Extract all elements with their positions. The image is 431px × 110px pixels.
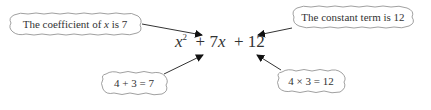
callout-constant-text: The constant term is 12 <box>289 4 417 30</box>
callout-sum: 4 + 3 = 7 <box>98 69 170 97</box>
exponent: 2 <box>183 32 188 42</box>
coefficient-text-post: is 7 <box>109 18 127 30</box>
callout-product: 4 × 3 = 12 <box>274 67 348 95</box>
coefficient-text-pre: The coefficient of <box>23 18 104 30</box>
quadratic-expression: x2 + 7x + 12 <box>175 32 265 52</box>
callout-sum-text: 4 + 3 = 7 <box>98 69 170 97</box>
linear-coefficient: 7 <box>209 32 218 51</box>
callout-coefficient: The coefficient of x is 7 <box>6 11 144 37</box>
plus-operator: + <box>234 32 244 51</box>
callout-product-text: 4 × 3 = 12 <box>274 67 348 95</box>
callout-constant: The constant term is 12 <box>289 4 417 30</box>
x-variable: x <box>175 32 183 51</box>
plus-operator: + <box>196 32 206 51</box>
linear-variable: x <box>218 32 226 51</box>
callout-coefficient-text: The coefficient of x is 7 <box>6 11 144 37</box>
constant-term: 12 <box>248 32 265 51</box>
